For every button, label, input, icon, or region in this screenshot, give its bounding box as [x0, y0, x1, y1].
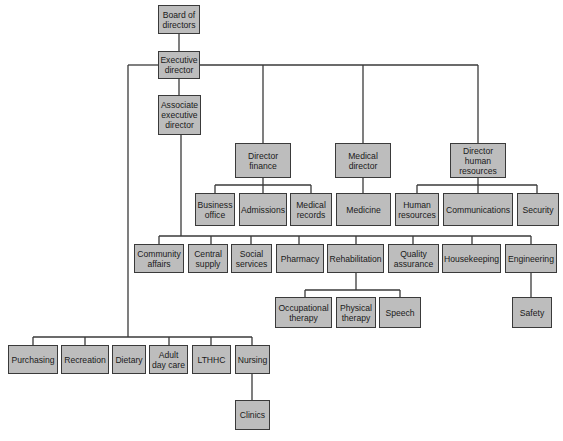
node-rehabilitation: Rehabilitation: [327, 244, 384, 273]
node-engineering: Engineering: [505, 244, 557, 273]
node-recreation: Recreation: [61, 345, 109, 374]
node-director-finance: Director finance: [235, 143, 291, 178]
node-medical-director: Medical director: [335, 143, 391, 178]
node-security: Security: [517, 193, 559, 226]
node-human-resources: Human resources: [395, 193, 439, 226]
node-housekeeping: Housekeeping: [442, 244, 501, 273]
node-clinics: Clinics: [235, 400, 270, 430]
node-director-human-resources: Director human resources: [450, 143, 506, 178]
node-occupational-therapy: Occupational therapy: [275, 297, 332, 328]
node-board-of-directors: Board of directors: [158, 5, 200, 34]
node-dietary: Dietary: [112, 345, 146, 374]
node-quality-assurance: Quality assurance: [388, 244, 439, 273]
node-medicine: Medicine: [336, 193, 391, 226]
node-social-services: Social services: [231, 244, 272, 273]
node-communications: Communications: [443, 193, 513, 226]
node-community-affairs: Community affairs: [134, 244, 184, 273]
node-business-office: Business office: [195, 193, 235, 226]
org-chart: Board of directors Executive director As…: [0, 0, 563, 441]
node-safety: Safety: [512, 297, 552, 328]
node-admissions: Admissions: [239, 193, 287, 226]
node-nursing: Nursing: [235, 345, 270, 374]
node-executive-director: Executive director: [158, 51, 200, 79]
node-speech: Speech: [379, 297, 421, 328]
node-central-supply: Central supply: [188, 244, 228, 273]
node-lthhc: LTHHC: [192, 345, 231, 374]
node-purchasing: Purchasing: [8, 345, 58, 374]
node-pharmacy: Pharmacy: [276, 244, 324, 273]
node-physical-therapy: Physical therapy: [336, 297, 376, 328]
node-adult-day-care: Adult day care: [149, 345, 188, 374]
node-medical-records: Medical records: [290, 193, 332, 226]
node-associate-executive-director: Associate executive director: [158, 95, 201, 135]
